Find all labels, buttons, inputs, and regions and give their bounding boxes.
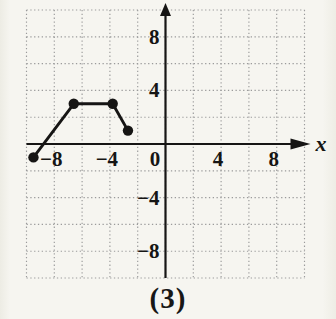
data-point xyxy=(69,99,79,109)
x-tick-label: 0 xyxy=(150,147,161,171)
figure-caption: (3) xyxy=(0,284,336,313)
x-axis-arrowhead-icon xyxy=(291,139,311,150)
data-point xyxy=(28,152,38,162)
y-axis-arrowhead-icon xyxy=(160,3,171,16)
y-tick-label: −8 xyxy=(137,239,159,263)
x-tick-label: 4 xyxy=(213,147,224,171)
y-tick-label: 4 xyxy=(149,78,160,102)
y-tick-label: −4 xyxy=(137,186,160,210)
x-tick-label: −4 xyxy=(96,147,119,171)
x-tick-label: −8 xyxy=(40,147,62,171)
coordinate-plane-figure: −8−404884−4−8x xyxy=(0,0,336,319)
data-point xyxy=(107,99,117,109)
x-axis-label: x xyxy=(315,131,327,156)
data-point xyxy=(123,125,133,135)
scanned-figure-page: −8−404884−4−8x (3) xyxy=(0,0,336,319)
x-tick-label: 8 xyxy=(268,147,279,171)
y-tick-label: 8 xyxy=(149,25,160,49)
